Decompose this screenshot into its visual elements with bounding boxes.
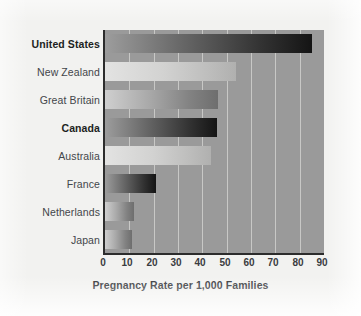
category-label: Japan (6, 235, 100, 246)
category-label: France (6, 179, 100, 190)
bar-series (105, 30, 324, 253)
x-tick-label: 40 (189, 257, 211, 268)
x-tick-label: 50 (214, 257, 236, 268)
x-axis-title: Pregnancy Rate per 1,000 Families (0, 279, 361, 291)
x-tick-label: 80 (287, 257, 309, 268)
category-label: Netherlands (6, 207, 100, 218)
x-tick-label: 60 (238, 257, 260, 268)
category-label: New Zealand (6, 67, 100, 78)
bar (105, 118, 217, 137)
category-label: Australia (6, 151, 100, 162)
category-axis-labels: United StatesNew ZealandGreat BritainCan… (6, 31, 100, 253)
x-tick-label: 0 (92, 257, 114, 268)
bar (105, 202, 134, 221)
category-label: United States (6, 39, 100, 50)
category-label: Great Britain (6, 95, 100, 106)
bar (105, 146, 211, 165)
category-label: Canada (6, 123, 100, 134)
bar (105, 230, 132, 249)
plot-area (103, 30, 324, 255)
x-tick-label: 30 (165, 257, 187, 268)
bar (105, 174, 156, 193)
bar (105, 90, 218, 109)
chart-figure: United StatesNew ZealandGreat BritainCan… (0, 0, 361, 316)
x-tick-label: 90 (311, 257, 333, 268)
bar (105, 34, 312, 53)
x-tick-label: 20 (141, 257, 163, 268)
x-axis-tick-labels: 0102030405060708090 (0, 257, 361, 273)
x-tick-label: 10 (116, 257, 138, 268)
x-tick-label: 70 (262, 257, 284, 268)
bar (105, 62, 236, 81)
